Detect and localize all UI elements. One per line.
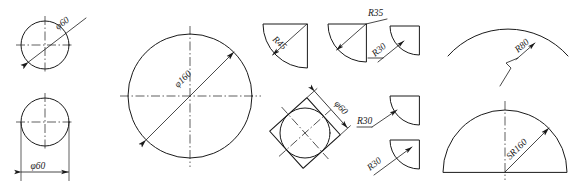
dimension-label-phi60-a: φ60 bbox=[53, 15, 71, 32]
sector-outline bbox=[390, 140, 419, 169]
dimension-label-r35: R35 bbox=[367, 8, 384, 18]
leader-shelf bbox=[366, 19, 387, 24]
fig-arc-r80: R80 bbox=[448, 29, 568, 86]
drawing-canvas: φ60 φ60 φ160 R45 bbox=[0, 0, 580, 191]
jogged-leader-segment bbox=[500, 58, 518, 86]
dimension-label-sr160: SR160 bbox=[504, 137, 529, 162]
radius-leader-line bbox=[372, 110, 397, 127]
fig-large-circle: φ160 bbox=[120, 26, 261, 167]
fig-circle-diameter-linear: φ60 bbox=[16, 93, 74, 181]
technical-drawing-sheet: φ60 φ60 φ160 R45 bbox=[0, 0, 580, 191]
dimension-label-phi60-b: φ60 bbox=[31, 161, 46, 171]
dimension-label-r30-mid: R30 bbox=[356, 116, 373, 126]
fig-circle-diameter-inside: φ60 bbox=[16, 15, 86, 74]
arc-outline bbox=[448, 29, 568, 56]
fig-sector-r30-top: R30 bbox=[368, 26, 419, 62]
dimension-label-r80: R80 bbox=[512, 37, 531, 55]
fig-dome-sr160: SR160 bbox=[443, 101, 567, 180]
radius-dimension-line bbox=[337, 24, 367, 50]
fig-sector-r30-mid: R30 bbox=[356, 96, 419, 127]
fig-sector-r45: R45 bbox=[263, 24, 307, 68]
sector-outline bbox=[328, 24, 366, 62]
fig-sector-r30-bottom: R30 bbox=[364, 140, 419, 175]
fig-square-circle: φ60 bbox=[256, 84, 355, 183]
sector-outline bbox=[390, 26, 419, 55]
dimension-label-r45: R45 bbox=[270, 33, 289, 52]
sector-outline bbox=[390, 96, 419, 125]
extension-line-b bbox=[340, 125, 350, 134]
